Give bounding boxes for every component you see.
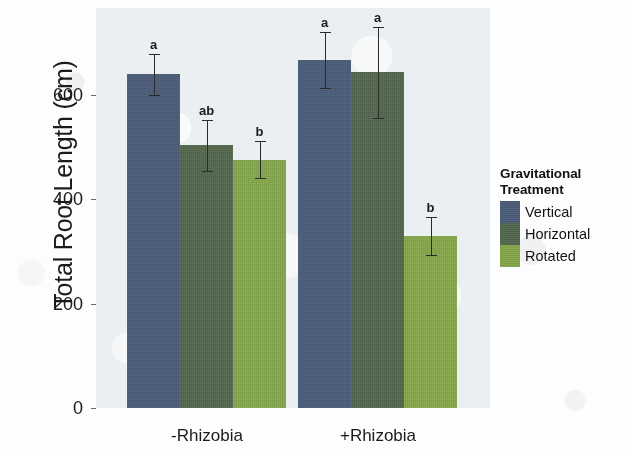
legend-swatch-vertical (500, 201, 520, 223)
error-cap-lower (426, 255, 437, 256)
error-cap-upper (426, 217, 437, 218)
error-bar-rotated-1 (431, 217, 432, 255)
legend-item-horizontal[interactable]: Horizontal (500, 223, 625, 245)
significance-letter-rotated-0: b (256, 125, 264, 138)
error-cap-upper (320, 32, 331, 33)
error-bar-vertical-0 (154, 54, 155, 95)
bar-fill (233, 160, 286, 408)
error-bar-horizontal-0 (207, 120, 208, 171)
error-bar-horizontal-1 (378, 27, 379, 118)
bar-rhizobia-horizontal (180, 145, 233, 408)
legend-label-vertical: Vertical (520, 204, 573, 220)
bar-rhizobia-horizontal (351, 72, 404, 408)
legend-label-horizontal: Horizontal (520, 226, 590, 242)
legend-title-line1: Gravitational (500, 166, 625, 182)
y-tick-mark-0 (91, 408, 96, 409)
bar-chart-figure: Total Root Length (cm) 0 200 400 600 aab… (0, 0, 625, 455)
significance-letter-horizontal-1: a (374, 11, 381, 24)
x-tick-label-plus-rhizobia: +Rhizobia (340, 426, 416, 446)
error-cap-lower (149, 95, 160, 96)
bar-fill (298, 60, 351, 408)
error-cap-upper (149, 54, 160, 55)
legend-item-vertical[interactable]: Vertical (500, 201, 625, 223)
significance-letter-vertical-1: a (321, 16, 328, 29)
error-cap-upper (255, 141, 266, 142)
error-bar-rotated-0 (260, 141, 261, 179)
legend-title-line2: Treatment (500, 182, 625, 198)
bar-rhizobia-rotated (404, 236, 457, 408)
y-tick-label-400: 400 (53, 189, 83, 210)
bar-fill (351, 72, 404, 408)
y-tick-label-200: 200 (53, 294, 83, 315)
legend-label-rotated: Rotated (520, 248, 576, 264)
x-tick-label-minus-rhizobia: -Rhizobia (171, 426, 243, 446)
error-cap-lower (202, 171, 213, 172)
significance-letter-horizontal-0: ab (199, 104, 214, 117)
error-cap-lower (373, 118, 384, 119)
error-cap-lower (320, 88, 331, 89)
legend-item-rotated[interactable]: Rotated (500, 245, 625, 267)
legend-title: Gravitational Treatment (500, 166, 625, 197)
bar-rhizobia-vertical (127, 74, 180, 408)
plot-panel: aabbaab (96, 8, 490, 408)
bar-rhizobia-rotated (233, 160, 286, 408)
legend-items: VerticalHorizontalRotated (500, 201, 625, 267)
bar-rhizobia-vertical (298, 60, 351, 408)
bar-fill (180, 145, 233, 408)
error-cap-lower (255, 178, 266, 179)
y-tick-label-600: 600 (53, 85, 83, 106)
legend-swatch-rotated (500, 245, 520, 267)
significance-letter-rotated-1: b (427, 201, 435, 214)
bar-fill (404, 236, 457, 408)
error-cap-upper (202, 120, 213, 121)
significance-letter-vertical-0: a (150, 38, 157, 51)
error-cap-upper (373, 27, 384, 28)
error-bar-vertical-1 (325, 32, 326, 88)
y-tick-label-0: 0 (73, 398, 83, 419)
legend: Gravitational Treatment VerticalHorizont… (500, 166, 625, 267)
bar-fill (127, 74, 180, 408)
legend-swatch-horizontal (500, 223, 520, 245)
y-axis-ticks: 0 200 400 600 (0, 0, 91, 455)
